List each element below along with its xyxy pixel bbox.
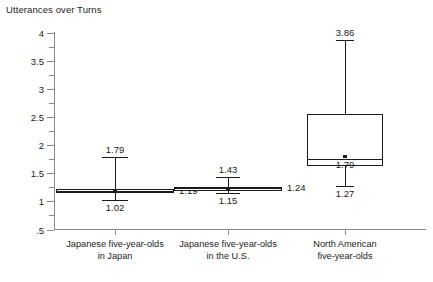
y-tick-minor — [49, 131, 54, 132]
mean-marker — [226, 188, 230, 191]
y-tick — [47, 117, 54, 118]
x-category-label: North Americanfive-year-olds — [270, 239, 420, 262]
x-axis-line — [54, 229, 426, 230]
upper-whisker-cap — [102, 157, 128, 158]
x-tick — [115, 230, 116, 235]
upper-whisker — [345, 40, 346, 114]
y-tick — [47, 173, 54, 174]
y-tick-label: 2.5 — [4, 111, 44, 122]
mean-marker — [113, 190, 117, 193]
x-tick — [345, 230, 346, 235]
y-tick-label: 1.5 — [4, 168, 44, 179]
y-tick — [47, 61, 54, 62]
upper-whisker — [228, 177, 229, 187]
y-tick-label: 4 — [4, 27, 44, 38]
y-tick-minor — [49, 103, 54, 104]
y-tick — [47, 33, 54, 34]
x-category-label-line: North American — [270, 239, 420, 251]
median-value-label: 1.24 — [287, 182, 306, 193]
y-tick — [47, 145, 54, 146]
chart-title: Utterances over Turns — [6, 4, 102, 15]
lower-whisker — [115, 193, 116, 200]
min-value-label: 1.27 — [315, 188, 375, 199]
boxplot-figure: Utterances over Turns 43.532.521.51.5 Ja… — [0, 0, 433, 282]
lower-whisker-cap — [336, 186, 354, 187]
y-tick-minor — [49, 159, 54, 160]
y-tick-label: 3 — [4, 83, 44, 94]
y-tick-minor — [49, 215, 54, 216]
x-category-label-line: five-year-olds — [270, 251, 420, 263]
y-tick-label: 1 — [4, 196, 44, 207]
y-axis-line — [54, 32, 55, 230]
min-value-label: 1.02 — [85, 202, 145, 213]
upper-whisker-cap — [336, 40, 354, 41]
y-tick-label: 3.5 — [4, 55, 44, 66]
y-tick-label: 2 — [4, 140, 44, 151]
lower-whisker-cap — [216, 193, 240, 194]
y-tick-label: .5 — [4, 224, 44, 235]
y-tick-minor — [49, 47, 54, 48]
median-value-label: 1.79 — [315, 159, 375, 170]
min-value-label: 1.15 — [198, 195, 258, 206]
max-value-label: 1.79 — [85, 144, 145, 155]
y-tick — [47, 230, 54, 231]
x-tick — [228, 230, 229, 235]
max-value-label: 3.86 — [315, 27, 375, 38]
upper-whisker-cap — [216, 177, 240, 178]
y-tick-minor — [49, 75, 54, 76]
y-tick-minor — [49, 187, 54, 188]
y-tick — [47, 89, 54, 90]
upper-whisker — [115, 157, 116, 189]
max-value-label: 1.43 — [198, 164, 258, 175]
y-tick — [47, 201, 54, 202]
lower-whisker-cap — [102, 200, 128, 201]
